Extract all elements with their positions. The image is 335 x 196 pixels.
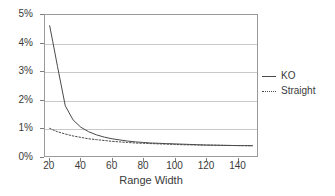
- y-tick-label: 2%: [19, 95, 33, 105]
- series-line-ko: [50, 26, 253, 146]
- plot-area: [44, 14, 258, 157]
- legend-item-straight: Straight: [262, 84, 334, 97]
- legend-label-straight: Straight: [281, 85, 315, 96]
- x-tick-label: 120: [198, 161, 215, 171]
- x-tick-label: 60: [106, 161, 117, 171]
- y-tick-label: 5%: [19, 9, 33, 19]
- legend-label-ko: KO: [281, 70, 295, 81]
- x-tick-label: 100: [166, 161, 183, 171]
- legend-key-dotted-line-icon: [262, 86, 276, 96]
- x-tick-label: 80: [138, 161, 149, 171]
- chart-legend: KO Straight: [262, 69, 334, 99]
- y-tick-label: 4%: [19, 38, 33, 48]
- x-tick-label: 20: [43, 161, 54, 171]
- y-tick-label: 1%: [19, 123, 33, 133]
- x-tick-label: 40: [75, 161, 86, 171]
- x-axis: 20406080100120140: [0, 158, 335, 174]
- x-axis-title: Range Width: [44, 174, 258, 187]
- legend-item-ko: KO: [262, 69, 334, 82]
- y-tick-label: 3%: [19, 66, 33, 76]
- series-line-straight: [50, 128, 253, 145]
- chart-container: 0%1%2%3%4%5% 20406080100120140 Range Wid…: [0, 0, 335, 196]
- x-tick-label: 140: [229, 161, 246, 171]
- legend-key-solid-line-icon: [262, 71, 276, 81]
- series-layer: [45, 15, 257, 156]
